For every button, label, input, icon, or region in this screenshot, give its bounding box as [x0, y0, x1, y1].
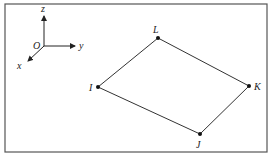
node-K-label: K — [253, 81, 262, 92]
node-L — [156, 36, 160, 40]
node-I-label: I — [88, 82, 93, 93]
node-K — [247, 84, 251, 88]
origin-label: O — [33, 40, 40, 51]
y-axis-label: y — [78, 40, 84, 51]
node-L-label: L — [152, 24, 159, 35]
x-axis-label: x — [16, 60, 22, 71]
z-axis-label: z — [40, 3, 45, 14]
element-outline — [98, 38, 249, 134]
node-I — [96, 85, 100, 89]
quad-element: L K J I — [88, 24, 262, 150]
element-diagram: z y x O L K J I — [0, 0, 270, 159]
node-J — [198, 132, 202, 136]
coordinate-axes: z y x O — [16, 3, 84, 71]
node-J-label: J — [196, 139, 201, 150]
